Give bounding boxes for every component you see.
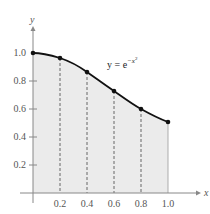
chart: 0.2 0.4 0.6 0.8 1.0 0.2 0.4 0.6 0.8 1.0 …: [0, 0, 210, 214]
y-tick-label: 0.4: [14, 131, 27, 142]
shaded-area: [33, 53, 168, 193]
data-point: [166, 120, 171, 125]
y-tick-label: 0.8: [14, 75, 27, 86]
x-axis-arrow-icon: [196, 191, 201, 196]
x-tick-label: 1.0: [162, 198, 175, 209]
data-point: [85, 70, 90, 75]
y-tick-label: 0.2: [14, 159, 27, 170]
data-point: [112, 89, 117, 94]
data-point: [31, 51, 36, 56]
x-tick-label: 0.8: [135, 198, 148, 209]
y-axis-label: y: [29, 14, 35, 25]
y-tick-label: 0.6: [14, 103, 27, 114]
x-axis-label: x: [203, 187, 209, 198]
x-tick-label: 0.2: [54, 198, 67, 209]
data-point: [58, 56, 63, 61]
data-point: [139, 107, 144, 112]
x-tick-label: 0.6: [108, 198, 121, 209]
y-axis-arrow-icon: [31, 26, 36, 31]
y-tick-label: 1.0: [14, 47, 27, 58]
x-tick-label: 0.4: [81, 198, 94, 209]
